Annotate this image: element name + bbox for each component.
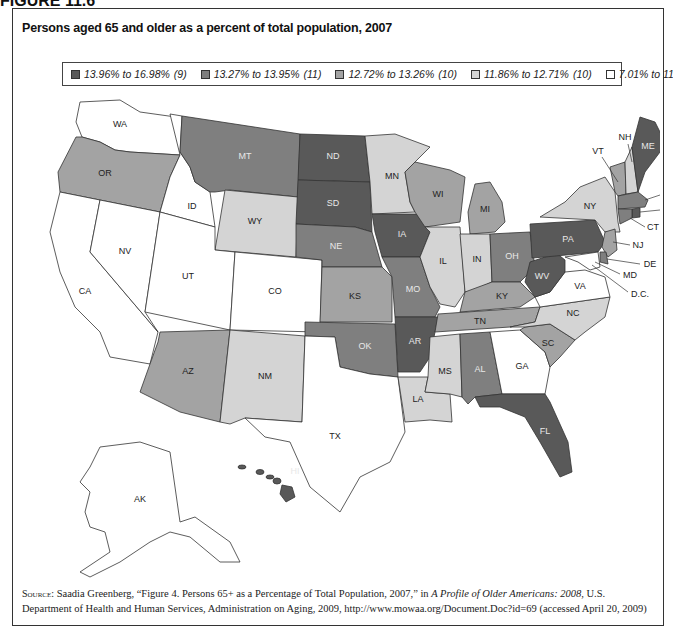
- state-label-KS: KS: [349, 291, 361, 301]
- state-label-AL: AL: [474, 364, 485, 374]
- state-label-NV: NV: [119, 246, 132, 256]
- state-ND: ND: [298, 134, 370, 182]
- state-label-VT: VT: [592, 146, 604, 156]
- state-label-PA: PA: [562, 234, 573, 244]
- state-label-IL: IL: [439, 256, 447, 266]
- state-KS: KS: [320, 267, 392, 322]
- state-MS: MS: [425, 334, 462, 397]
- state-label-SC: SC: [542, 338, 555, 348]
- legend-item-2: 13.27% to 13.95% (11): [201, 68, 322, 80]
- legend-label: 7.01% to 11.85%: [619, 68, 673, 80]
- state-label-WY: WY: [248, 216, 263, 226]
- state-label-MS: MS: [438, 366, 452, 376]
- state-label-NJ: NJ: [633, 240, 644, 250]
- state-label-KY: KY: [496, 291, 508, 301]
- state-label-AK: AK: [134, 494, 146, 504]
- state-label-CA: CA: [79, 286, 92, 296]
- state-FL: FL: [475, 394, 572, 477]
- state-label-IN: IN: [473, 254, 482, 264]
- source-note: Source: Saadia Greenberg, “Figure 4. Per…: [22, 586, 652, 616]
- legend-item-5: 7.01% to 11.85% (11): [606, 68, 673, 80]
- state-label-SD: SD: [327, 198, 340, 208]
- state-label-OK: OK: [358, 341, 371, 351]
- state-NM: NM: [220, 330, 305, 424]
- state-label-FL: FL: [540, 426, 551, 436]
- state-label-DE: DE: [644, 259, 657, 269]
- state-label-MN: MN: [385, 171, 399, 181]
- state-label-MO: MO: [406, 284, 421, 294]
- legend-item-1: 13.96% to 16.98% (9): [71, 68, 187, 80]
- legend-label: 13.96% to 16.98%: [84, 68, 170, 80]
- legend: 13.96% to 16.98% (9) 13.27% to 13.95% (1…: [62, 62, 622, 86]
- legend-label: 11.86% to 12.71%: [484, 68, 569, 80]
- state-IN: IN: [460, 234, 492, 292]
- state-label-AZ: AZ: [182, 366, 194, 376]
- legend-count: (10): [438, 68, 457, 80]
- state-CT: [618, 209, 632, 224]
- state-label-WI: WI: [433, 189, 444, 199]
- state-label-MT: MT: [239, 151, 252, 161]
- legend-item-4: 11.86% to 12.71% (10): [471, 68, 592, 80]
- state-label-OH: OH: [505, 251, 519, 261]
- state-label-ME: ME: [641, 141, 655, 151]
- state-label-TN: TN: [474, 316, 486, 326]
- state-label-NY: NY: [584, 201, 597, 211]
- state-label-ID: ID: [188, 201, 198, 211]
- legend-count: (10): [573, 68, 592, 80]
- legend-swatch: [471, 70, 480, 79]
- state-label-VA: VA: [574, 281, 585, 291]
- source-text-1: Saadia Greenberg, “Figure 4. Persons 65+…: [54, 588, 431, 599]
- state-HI: HI: [238, 465, 300, 502]
- state-label-IA: IA: [398, 229, 407, 239]
- state-RI: [632, 208, 640, 218]
- legend-swatch: [335, 70, 344, 79]
- state-label-WV: WV: [535, 271, 550, 281]
- state-label-NH: NH: [619, 132, 632, 142]
- legend-swatch: [201, 70, 210, 79]
- state-label-MI: MI: [480, 204, 490, 214]
- state-label-DC: D.C.: [631, 289, 649, 299]
- state-label-NE: NE: [330, 241, 343, 251]
- legend-swatch: [71, 70, 80, 79]
- state-label-WA: WA: [113, 119, 127, 129]
- source-publication: A Profile of Older Americans: 2008: [431, 588, 581, 599]
- state-label-TX: TX: [329, 431, 341, 441]
- state-label-GA: GA: [515, 361, 528, 371]
- state-label-OR: OR: [98, 168, 112, 178]
- state-label-CO: CO: [268, 286, 282, 296]
- legend-label: 13.27% to 13.95%: [214, 68, 300, 80]
- legend-label: 12.72% to 13.26%: [348, 68, 434, 80]
- legend-count: (11): [304, 68, 322, 80]
- state-label-UT: UT: [182, 271, 194, 281]
- figure-title: Persons aged 65 and older as a percent o…: [22, 21, 392, 35]
- state-label-NC: NC: [567, 308, 580, 318]
- us-map: WA OR CA NV ID MT WY UT: [20, 92, 660, 587]
- state-ME: ME: [632, 117, 660, 192]
- legend-count: (9): [174, 68, 187, 80]
- state-label-NM: NM: [258, 371, 272, 381]
- legend-swatch: [606, 70, 615, 79]
- us-map-svg: WA OR CA NV ID MT WY UT: [20, 92, 660, 587]
- state-label-MD: MD: [623, 270, 637, 280]
- legend-item-3: 12.72% to 13.26% (10): [335, 68, 457, 80]
- state-label-LA: LA: [412, 394, 423, 404]
- state-label-CT: CT: [647, 222, 659, 232]
- state-MI: MI: [468, 182, 505, 234]
- state-label-AR: AR: [409, 336, 422, 346]
- source-prefix: Source:: [22, 588, 54, 599]
- state-CO: CO: [230, 252, 322, 332]
- state-label-ND: ND: [327, 151, 340, 161]
- state-AK: AK: [80, 442, 240, 577]
- state-label-HI: HI: [291, 466, 300, 476]
- state-WY: WY: [215, 190, 298, 257]
